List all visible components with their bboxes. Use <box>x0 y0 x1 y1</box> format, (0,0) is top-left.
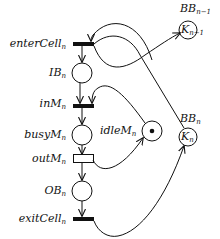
transition-exitCell <box>73 217 94 221</box>
place-IB <box>72 63 92 83</box>
transition-enterCell <box>73 42 94 46</box>
label-IB: IBn <box>49 67 66 80</box>
label-busyM: busyMn <box>24 129 66 142</box>
arc-BB-exitCell <box>100 54 183 125</box>
transition-inM <box>73 104 94 108</box>
arc-exitCell-BB <box>94 146 184 236</box>
arc-outM-idleM <box>93 138 143 169</box>
label-K: Kn <box>181 131 194 144</box>
arc-idleM-inM <box>92 86 145 123</box>
label-BBprev: BBn−1 <box>180 3 211 16</box>
label-outM: outMn <box>32 153 66 166</box>
label-BB: BBn <box>180 113 201 126</box>
label-enterCell: enterCelln <box>10 38 66 51</box>
place-OB <box>72 181 92 201</box>
token-icon <box>150 129 155 134</box>
label-OB: OBn <box>44 185 66 198</box>
label-exitCell: exitCelln <box>19 213 66 226</box>
label-Kprev: Kn−1 <box>181 24 204 37</box>
label-idleM: idleMn <box>100 125 136 138</box>
arc-BBprev-enterCell <box>91 24 152 60</box>
place-busyM <box>72 125 92 145</box>
transition-outM <box>74 155 94 163</box>
label-inM: inMn <box>40 98 66 111</box>
